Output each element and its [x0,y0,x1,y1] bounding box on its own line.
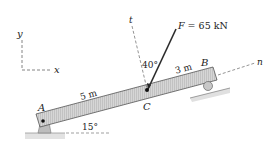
point-b-label: B [200,57,208,68]
xy-axes: y x [16,28,60,75]
incline-angle-label: 15° [82,122,98,132]
n-axis-label: n [257,57,263,67]
point-c [145,88,149,92]
beam [36,67,217,127]
point-a-label: A [37,102,45,113]
point-c-label: C [143,101,151,112]
y-axis-label: y [16,28,23,39]
x-axis-label: x [54,64,60,75]
force-angle-label: 40° [142,60,158,70]
t-axis-label: t [129,15,133,25]
force-label: F = 65 kN [177,20,228,31]
roller-b [204,82,213,91]
ground-a [25,133,110,139]
pin-a [41,119,45,123]
t-axis-line [132,26,147,89]
beam-diagram: y x A 15° 5 m t F = 65 kN 40° 3 m C B n [0,0,277,148]
n-axis-line [218,63,255,75]
